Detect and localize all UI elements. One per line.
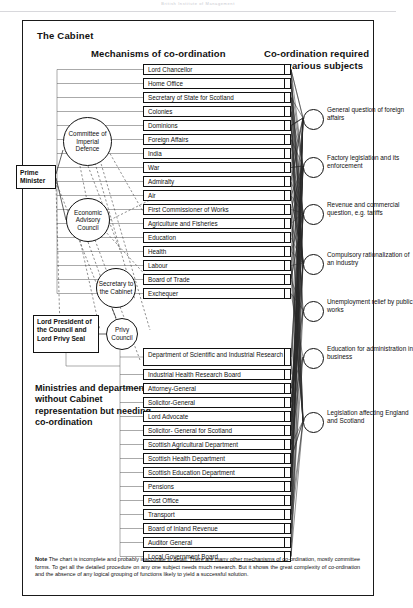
department-label: Dominions [148, 122, 178, 129]
department-box[interactable]: Scottish Education Department [143, 467, 285, 478]
footnote: Note The chart is incomplete and probabl… [35, 556, 360, 579]
node-lord-president[interactable]: Lord President of the Council and Lord P… [33, 315, 99, 353]
department-connector-stub [285, 509, 291, 520]
department-box[interactable]: Scottish Health Department [143, 453, 285, 464]
department-label: Transport [148, 511, 175, 518]
department-connector-stub [285, 453, 291, 464]
department-connector-stub [285, 78, 291, 89]
department-label: Auditor General [148, 539, 192, 546]
department-box[interactable]: War [143, 162, 285, 173]
subject-label: Factory legislation and its enforcement [327, 154, 413, 170]
department-label: Board of Inland Revenue [148, 525, 218, 532]
department-label: Home Office [148, 80, 183, 87]
department-label: First Commissioner of Works [148, 206, 229, 213]
node-privy-council[interactable]: Privy Council [106, 318, 138, 350]
department-label: Lord Chancellor [148, 66, 192, 73]
department-connector-stub [285, 190, 291, 201]
department-box[interactable]: Post Office [143, 495, 285, 506]
department-connector-stub [285, 425, 291, 436]
subject-label: Legislation affecting England and Scotla… [327, 409, 413, 425]
department-box[interactable]: Transport [143, 509, 285, 520]
department-label: Post Office [148, 497, 179, 504]
node-prime-minister-label: Prime Minister [20, 169, 52, 186]
department-connector-stub [285, 467, 291, 478]
node-secretary-to-the-cabinet-label: Secretary to the Cabinet [97, 280, 135, 295]
department-connector-stub [285, 92, 291, 103]
department-connector-stub [285, 134, 291, 145]
node-prime-minister[interactable]: Prime Minister [16, 165, 56, 189]
department-connector-stub [285, 64, 291, 75]
department-box[interactable]: Attorney-General [143, 383, 285, 394]
department-box[interactable]: Auditor General [143, 537, 285, 548]
department-label: War [148, 164, 159, 171]
department-box[interactable]: First Commissioner of Works [143, 204, 285, 215]
department-box[interactable]: Department of Scientific and Industrial … [143, 348, 285, 366]
subject-node[interactable] [303, 348, 324, 369]
department-label: Agriculture and Fisheries [148, 220, 218, 227]
department-box[interactable]: Health [143, 246, 285, 257]
department-connector-stub [285, 246, 291, 257]
department-label: Health [148, 248, 166, 255]
node-committee-of-imperial-defence[interactable]: Committee of Imperial Defence [63, 117, 112, 166]
subject-node[interactable] [303, 157, 324, 178]
department-box[interactable]: Foreign Affairs [143, 134, 285, 145]
node-privy-council-label: Privy Council [107, 326, 137, 341]
department-connector-stub [285, 439, 291, 450]
subject-label: Unemployment relief by public works [327, 298, 413, 314]
node-economic-advisory-council-label: Economic Advisory Council [67, 209, 109, 232]
department-box[interactable]: Industrial Health Research Board [143, 369, 285, 380]
subject-node[interactable] [303, 109, 324, 130]
node-secretary-to-the-cabinet[interactable]: Secretary to the Cabinet [96, 268, 136, 308]
subject-node[interactable] [303, 204, 324, 225]
department-box[interactable]: Solicitor-General [143, 397, 285, 408]
subject-node[interactable] [303, 301, 324, 322]
department-box[interactable]: Exchequer [143, 288, 285, 299]
department-box[interactable]: Education [143, 232, 285, 243]
department-connector-stub [285, 176, 291, 187]
node-committee-of-imperial-defence-label: Committee of Imperial Defence [64, 130, 111, 153]
department-box[interactable]: Admiralty [143, 176, 285, 187]
department-box[interactable]: Board of Trade [143, 274, 285, 285]
department-label: Scottish Education Department [148, 469, 235, 476]
department-label: Exchequer [148, 290, 178, 297]
department-box[interactable]: Dominions [143, 120, 285, 131]
department-box[interactable]: Home Office [143, 78, 285, 89]
department-label: Scottish Agricultural Department [148, 441, 238, 448]
department-box[interactable]: Agriculture and Fisheries [143, 218, 285, 229]
department-box[interactable]: Scottish Agricultural Department [143, 439, 285, 450]
node-economic-advisory-council[interactable]: Economic Advisory Council [66, 198, 110, 242]
department-box[interactable]: Air [143, 190, 285, 201]
department-connector-stub [285, 204, 291, 215]
subject-label: General question of foreign affairs [327, 106, 413, 122]
department-label: Secretary of State for Scotland [148, 94, 234, 101]
department-connector-stub [285, 397, 291, 408]
department-label: Education [148, 234, 176, 241]
subject-node[interactable] [303, 254, 324, 275]
department-label: Attorney-General [148, 385, 196, 392]
department-box[interactable]: Solicitor- General for Scotland [143, 425, 285, 436]
department-label: Colonies [148, 108, 173, 115]
department-connector-stub [285, 383, 291, 394]
department-box[interactable]: India [143, 148, 285, 159]
department-box[interactable]: Lord Chancellor [143, 64, 285, 75]
department-connector-stub [285, 481, 291, 492]
subject-node[interactable] [303, 412, 324, 433]
department-connector-stub [285, 232, 291, 243]
department-label: Industrial Health Research Board [148, 371, 241, 378]
department-label: Pensions [148, 483, 174, 490]
department-label: Department of Scientific and Industrial … [148, 351, 283, 358]
footnote-label: Note [35, 556, 47, 562]
department-box[interactable]: Colonies [143, 106, 285, 117]
node-lord-president-label: Lord President of the Council and Lord P… [37, 318, 92, 342]
department-box[interactable]: Labour [143, 260, 285, 271]
department-label: Scottish Health Department [148, 455, 225, 462]
department-box[interactable]: Lord Advocate [143, 411, 285, 422]
department-box[interactable]: Board of Inland Revenue [143, 523, 285, 534]
department-box[interactable]: Pensions [143, 481, 285, 492]
department-box[interactable]: Secretary of State for Scotland [143, 92, 285, 103]
department-label: India [148, 150, 162, 157]
department-connector-stub [285, 162, 291, 173]
department-connector-stub [285, 411, 291, 422]
department-connector-stub [285, 120, 291, 131]
subject-label: Education for administration in business [327, 345, 413, 361]
